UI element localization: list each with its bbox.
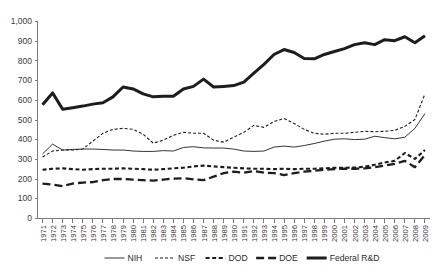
y-axis-tick-labels: 01002003004005006007008009001,000 [11,16,33,223]
x-axis-tick-label: 1972 [49,225,58,242]
y-axis-tick-label: 1,000 [11,16,33,26]
y-axis-tick-label: 100 [18,193,32,203]
x-axis-tick-label: 2007 [401,225,410,242]
x-axis-tick-label: 1986 [189,225,198,242]
x-axis-tick-label: 1987 [200,225,209,242]
x-axis-tick-label: 1980 [129,225,138,242]
x-axis-tick-label: 1998 [310,225,319,242]
y-axis-tick-label: 900 [18,36,32,46]
x-axis-tick-label: 1994 [270,225,279,242]
x-axis-tick-label: 1975 [79,225,88,242]
x-axis-tick-label: 1995 [280,225,289,242]
x-axis-tick-marks [43,219,425,223]
x-axis-tick-label: 1974 [69,225,78,242]
y-axis-tick-label: 700 [18,75,32,85]
x-axis-tick-label: 1997 [300,225,309,242]
x-axis-tick-label: 1983 [159,225,168,242]
x-axis-tick-label: 1982 [149,225,158,242]
series-line-dod [43,150,425,170]
y-axis-tick-label: 500 [18,115,32,125]
x-axis-tick-label: 1976 [89,225,98,242]
x-axis-tick-label: 2000 [330,225,339,242]
y-axis-tick-label: 300 [18,154,32,164]
x-axis-tick-label: 2001 [340,225,349,242]
chart-container: 01002003004005006007008009001,000 197119… [0,0,437,269]
y-axis-tick-label: 800 [18,56,32,66]
x-axis-tick-label: 1990 [230,225,239,242]
y-axis-group: 01002003004005006007008009001,000 [11,16,38,223]
legend-label-nsf: NSF [178,253,195,263]
x-axis-tick-label: 1981 [139,225,148,242]
x-axis-tick-label: 1992 [250,225,259,242]
legend-label-dod: DOD [229,253,248,263]
x-axis-group: 1971197219731974197519761977197819791980… [38,219,431,242]
data-series-group [43,36,425,186]
x-axis-tick-label: 1999 [320,225,329,242]
x-axis-tick-label: 1979 [119,225,128,242]
y-axis-tick-label: 400 [18,134,32,144]
chart-legend: NIHNSFDODDOEFederal R&D [104,253,379,263]
x-axis-tick-label: 1984 [169,225,178,242]
x-axis-tick-label: 2009 [421,225,430,242]
series-line-nih [43,114,425,154]
x-axis-tick-label: 1989 [220,225,229,242]
y-axis-tick-label: 600 [18,95,32,105]
x-axis-tick-label: 1988 [210,225,219,242]
x-axis-tick-label: 1977 [99,225,108,242]
x-axis-tick-label: 2002 [351,225,360,242]
x-axis-tick-label: 1973 [59,225,68,242]
legend-label-doe: DOE [279,253,298,263]
series-line-federal-r-d [43,36,425,109]
y-axis-tick-label: 200 [18,174,32,184]
x-axis-tick-label: 2008 [411,225,420,242]
legend-label-nih: NIH [127,253,142,263]
y-axis-tick-label: 0 [27,213,32,223]
x-axis-tick-label: 2003 [361,225,370,242]
x-axis-tick-label: 2005 [381,225,390,242]
x-axis-tick-label: 2004 [371,225,380,242]
line-chart: 01002003004005006007008009001,000 197119… [0,0,437,269]
x-axis-tick-label: 1991 [240,225,249,242]
x-axis-tick-labels: 1971197219731974197519761977197819791980… [39,225,430,242]
legend-label-federal-r-d: Federal R&D [330,253,380,263]
x-axis-tick-label: 2006 [391,225,400,242]
series-line-doe [43,155,425,186]
x-axis-tick-label: 1971 [39,225,48,242]
x-axis-tick-label: 1978 [109,225,118,242]
x-axis-tick-label: 1985 [179,225,188,242]
x-axis-tick-label: 1996 [290,225,299,242]
x-axis-tick-label: 1993 [260,225,269,242]
